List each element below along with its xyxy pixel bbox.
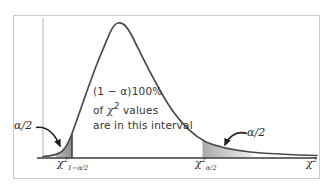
chi-symbol: χ <box>107 104 114 116</box>
interval-annotation-line1: (1 − α)100% <box>93 84 193 99</box>
left-tail-arrow <box>36 127 60 146</box>
axis-label-upper-critical: χ2α/2 <box>195 157 217 170</box>
chi-square-distribution-figure: α/2 α/2 (1 − α)100% of χ2 values are in … <box>0 0 329 191</box>
interval-annotation-line2: of χ2 values <box>93 99 193 118</box>
axis-label-variable: χ2 <box>306 157 317 170</box>
interval-annotation-line3: are in this interval <box>93 118 193 133</box>
right-tail-area-label: α/2 <box>247 126 265 139</box>
axis-label-lower-critical: χ21−α/2 <box>57 157 88 170</box>
interval-annotation: (1 − α)100% of χ2 values are in this int… <box>93 84 193 133</box>
left-tail-area-label: α/2 <box>14 119 32 132</box>
right-tail-arrow <box>225 133 247 145</box>
